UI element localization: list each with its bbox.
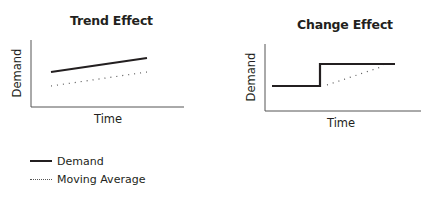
trend-chart-xlabel: Time	[94, 112, 122, 126]
legend-item-moving-average: Moving Average	[30, 170, 145, 188]
trend-chart-series	[51, 58, 147, 86]
change-moving-average-line	[327, 66, 384, 85]
legend-label: Moving Average	[57, 173, 145, 186]
trend-chart-axes	[31, 40, 184, 107]
change-chart-axes	[265, 44, 421, 111]
change-chart-series	[272, 64, 395, 86]
change-chart-title: Change Effect	[297, 17, 393, 32]
trend-moving-average-line	[51, 72, 147, 86]
legend: Demand Moving Average	[30, 152, 145, 188]
dotted-line-icon	[30, 179, 52, 180]
legend-label: Demand	[57, 155, 104, 168]
change-chart-ylabel: Demand	[244, 53, 258, 102]
trend-demand-line	[51, 58, 147, 72]
trend-chart-ylabel: Demand	[10, 49, 24, 98]
trend-chart-title: Trend Effect	[70, 13, 153, 28]
solid-line-icon	[30, 160, 52, 162]
change-chart-xlabel: Time	[327, 116, 355, 130]
legend-item-demand: Demand	[30, 152, 145, 170]
